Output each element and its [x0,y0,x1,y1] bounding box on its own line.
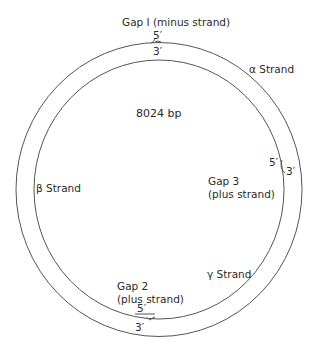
gap2-five-prime: 5′ [137,302,146,314]
gap1-label: Gap I (minus strand) [122,16,230,28]
beta-strand-label: β Strand [36,182,81,194]
gap2-name: Gap 2 [117,280,148,292]
gap3-name: Gap 3 [208,175,239,187]
gap1-five-prime: 5′ [153,29,162,41]
gap3-five-prime: 5′ [269,156,278,168]
gap2-strand: (plus strand) [117,293,184,305]
gap3-mark [281,160,285,173]
gamma-strand-label: γ Strand [207,268,251,280]
gap2-three-prime: 3′ [135,321,144,333]
genome-size-label: 8024 bp [136,108,181,120]
gap2-mark [146,317,155,320]
gap3-three-prime: 3′ [286,165,295,177]
gap3-strand: (plus strand) [208,188,275,200]
gap1-three-prime: 3′ [153,45,162,57]
alpha-strand-label: α Strand [249,63,294,75]
